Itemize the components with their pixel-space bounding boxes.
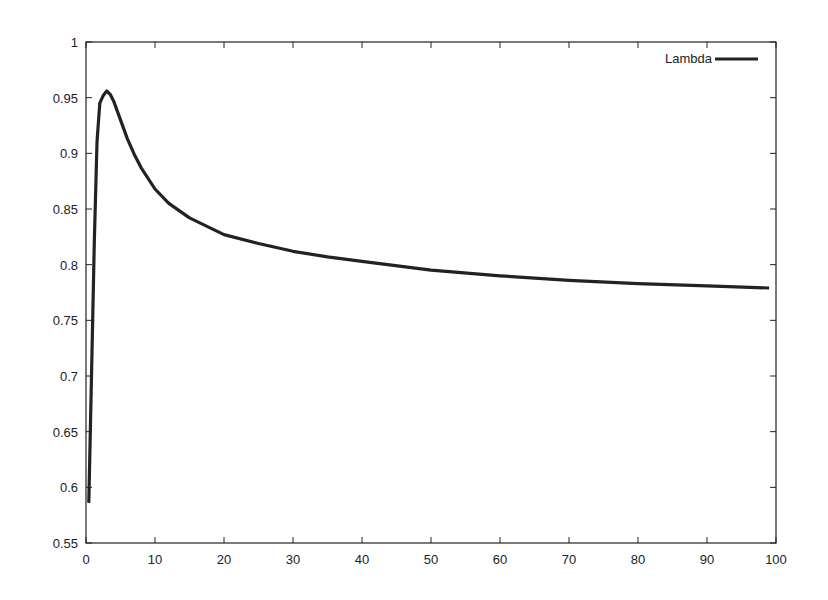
plot-frame (86, 42, 776, 543)
series-line-lambda (89, 91, 769, 503)
legend: Lambda (665, 51, 758, 66)
y-tick-label: 0.65 (53, 425, 78, 440)
x-tick-label: 80 (631, 552, 645, 567)
y-tick-label: 0.7 (60, 369, 78, 384)
y-tick-label: 1 (71, 35, 78, 50)
x-tick-label: 90 (700, 552, 714, 567)
y-tick-label: 0.55 (53, 536, 78, 551)
x-tick-label: 20 (217, 552, 231, 567)
y-tick-label: 0.6 (60, 480, 78, 495)
plot-area (89, 91, 769, 503)
x-axis: 0102030405060708090100 (82, 42, 786, 567)
y-axis: 0.550.60.650.70.750.80.850.90.951 (53, 35, 776, 551)
x-tick-label: 100 (765, 552, 787, 567)
y-tick-label: 0.8 (60, 258, 78, 273)
legend-label: Lambda (665, 51, 713, 66)
y-tick-label: 0.95 (53, 91, 78, 106)
x-tick-label: 70 (562, 552, 576, 567)
y-tick-label: 0.85 (53, 202, 78, 217)
x-tick-label: 0 (82, 552, 89, 567)
x-tick-label: 40 (355, 552, 369, 567)
y-tick-label: 0.9 (60, 146, 78, 161)
x-tick-label: 10 (148, 552, 162, 567)
x-tick-label: 50 (424, 552, 438, 567)
x-tick-label: 60 (493, 552, 507, 567)
x-tick-label: 30 (286, 552, 300, 567)
line-chart: 0.550.60.650.70.750.80.850.90.951 010203… (0, 0, 828, 600)
y-tick-label: 0.75 (53, 313, 78, 328)
